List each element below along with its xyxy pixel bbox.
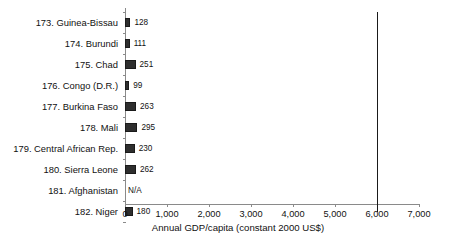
bar-row: 176. Congo (D.R.)99 [0,75,476,96]
bar [125,18,130,27]
y-axis-tick [123,96,126,97]
plot-area: 173. Guinea-Bissau128174. Burundi111175.… [125,8,419,204]
y-axis-tick [123,180,126,181]
x-axis-tick-label: 7,000 [408,209,431,219]
bar-value-label: 180 [137,201,151,222]
y-axis-tick [123,75,126,76]
bar-category-label: 176. Congo (D.R.) [0,75,118,96]
bar [125,39,130,48]
bar-row: 180. Sierra Leone262 [0,159,476,180]
bar-value-label: 295 [141,117,155,138]
bar-value-label: N/A [128,180,142,201]
x-axis-tick-label: 0 [122,209,127,219]
y-axis-tick [123,117,126,118]
bar-value-label: 128 [134,12,148,33]
bar-value-label: 262 [140,159,154,180]
bar-category-label: 178. Mali [0,117,118,138]
y-axis-tick [123,54,126,55]
bar-category-label: 177. Burkina Faso [0,96,118,117]
bar-row: 177. Burkina Faso263 [0,96,476,117]
bar-row: 178. Mali295 [0,117,476,138]
bar-row: 174. Burundi111 [0,33,476,54]
bar-category-label: 180. Sierra Leone [0,159,118,180]
bar-value-label: 263 [140,96,154,117]
bar-category-label: 175. Chad [0,54,118,75]
x-axis-tick [251,204,252,207]
y-axis-tick [123,33,126,34]
y-axis-tick [123,12,126,13]
x-axis-tick [209,204,210,207]
bar-chart: 173. Guinea-Bissau128174. Burundi111175.… [0,0,476,248]
x-axis-title: Annual GDP/capita (constant 2000 US$) [0,222,476,233]
bar-value-label: 230 [139,138,153,159]
x-axis-tick-label: 4,000 [282,209,305,219]
bar-row: 175. Chad251 [0,54,476,75]
bar-value-label: 251 [140,54,154,75]
bar [125,123,137,132]
bar-value-label: 99 [133,75,142,96]
bar [125,60,136,69]
y-axis-tick [123,201,126,202]
x-axis-tick-label: 5,000 [324,209,347,219]
bar-category-label: 173. Guinea-Bissau [0,12,118,33]
x-axis-tick-label: 1,000 [156,209,179,219]
bar [125,144,135,153]
bar [125,165,136,174]
bar-category-label: 174. Burundi [0,33,118,54]
bar-row: 181. AfghanistanN/A [0,180,476,201]
x-axis-tick [293,204,294,207]
bar-row: 173. Guinea-Bissau128 [0,12,476,33]
x-axis-tick [125,204,126,207]
bar [125,81,129,90]
bar-row: 182. Niger180 [0,201,476,222]
y-axis-tick [123,138,126,139]
bar [125,102,136,111]
x-axis-tick [335,204,336,207]
x-axis-tick [167,204,168,207]
y-axis-tick [123,159,126,160]
bar-category-label: 182. Niger [0,201,118,222]
x-axis-tick-label: 3,000 [240,209,263,219]
x-axis-tick [419,204,420,207]
bar-row: 179. Central African Rep.230 [0,138,476,159]
x-axis-tick-label: 2,000 [198,209,221,219]
bar-value-label: 111 [134,33,146,54]
bar-category-label: 179. Central African Rep. [0,138,118,159]
bar-category-label: 181. Afghanistan [0,180,118,201]
reference-line-6000 [377,12,378,212]
